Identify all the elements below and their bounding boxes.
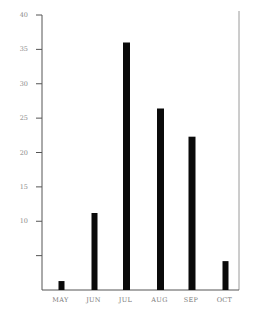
bar-chart: 10152025303540 MAYJUNJULAUGSEPOCT <box>0 0 256 314</box>
x-tick-label: MAY <box>52 296 69 304</box>
x-tick-label: AUG <box>150 296 167 304</box>
y-tick-label: 40 <box>20 11 28 19</box>
y-tick-label: 30 <box>20 80 28 88</box>
bar-aug <box>157 109 164 291</box>
y-tick-label: 15 <box>20 183 28 191</box>
bar-sep <box>189 137 196 290</box>
x-axis-labels: MAYJUNJULAUGSEPOCT <box>52 296 232 304</box>
bar-jun <box>92 213 98 290</box>
y-tick-label: 20 <box>20 149 28 157</box>
bars <box>59 43 229 291</box>
bar-oct <box>223 261 229 290</box>
x-tick-label: OCT <box>217 296 233 304</box>
y-tick-label: 10 <box>20 217 28 225</box>
x-tick-label: JUL <box>118 296 133 304</box>
bar-may <box>59 281 65 290</box>
x-tick-label: JUN <box>85 296 101 304</box>
y-tick-label: 25 <box>20 114 28 122</box>
x-tick-label: SEP <box>184 296 199 304</box>
y-tick-label: 35 <box>20 45 28 53</box>
bar-jul <box>123 43 130 291</box>
y-axis: 10152025303540 <box>20 11 42 290</box>
